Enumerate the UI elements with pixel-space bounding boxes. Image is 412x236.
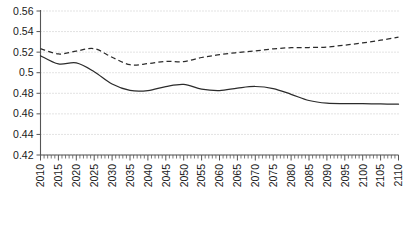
chart-canvas: 0.560.540.520.50.480.460.440.42 20102015… [0, 0, 412, 236]
x-tick-label: 2010 [34, 164, 46, 188]
series-line-dashed-series [41, 37, 399, 65]
x-tick-label: 2100 [357, 164, 369, 188]
x-tick-label: 2030 [106, 164, 118, 188]
tick-marks-group [37, 11, 399, 161]
data-series-group [41, 37, 399, 104]
gridlines-group [41, 11, 399, 155]
y-tick-label: 0.44 [13, 128, 34, 140]
y-tick-label: 0.5 [19, 66, 34, 78]
y-tick-label: 0.54 [13, 25, 34, 37]
x-tick-label: 2060 [213, 164, 225, 188]
y-tick-label: 0.42 [13, 149, 34, 161]
x-tick-label: 2080 [285, 164, 297, 188]
x-tick-label: 2055 [195, 164, 207, 188]
x-tick-label: 2045 [160, 164, 172, 188]
x-tick-label: 2110 [392, 164, 404, 187]
x-tick-label: 2065 [231, 164, 243, 188]
x-tick-label: 2035 [124, 164, 136, 188]
x-tick-label: 2025 [88, 164, 100, 188]
x-tick-label: 2085 [303, 164, 315, 188]
x-tick-label: 2040 [142, 164, 154, 188]
x-tick-label: 2070 [249, 164, 261, 188]
line-chart: 0.560.540.520.50.480.460.440.42 20102015… [0, 0, 412, 236]
axes-group [41, 10, 399, 155]
x-tick-label: 2015 [52, 164, 64, 188]
x-tick-label: 2105 [374, 164, 386, 188]
x-tick-label: 2095 [339, 164, 351, 188]
y-tick-label: 0.46 [13, 107, 34, 119]
y-axis-labels-group: 0.560.540.520.50.480.460.440.42 [13, 5, 34, 161]
x-tick-label: 2020 [70, 164, 82, 188]
x-tick-label: 2050 [178, 164, 190, 188]
x-axis-labels-group: 2010201520202025203020352040204520502055… [34, 164, 404, 188]
series-line-solid-series [41, 56, 399, 104]
y-tick-label: 0.48 [13, 87, 34, 99]
x-tick-label: 2090 [321, 164, 333, 188]
y-tick-label: 0.56 [13, 5, 34, 17]
y-tick-label: 0.52 [13, 46, 34, 58]
x-tick-label: 2075 [267, 164, 279, 188]
